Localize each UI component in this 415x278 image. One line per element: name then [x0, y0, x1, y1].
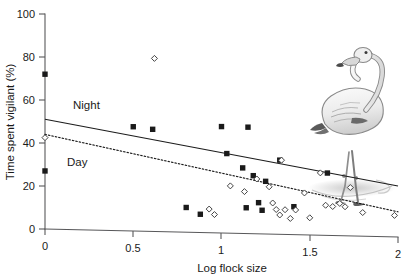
night-data-point — [42, 72, 47, 77]
night-data-point — [198, 212, 203, 217]
x-tick-label-0-5: 0.5 — [125, 242, 140, 254]
night-data-point — [244, 205, 249, 210]
day-data-point — [360, 210, 366, 216]
day-annotation: Day — [67, 156, 88, 168]
day-data-point — [273, 207, 279, 213]
night-data-point — [131, 124, 136, 129]
night-data-point — [184, 205, 189, 210]
day-data-point — [151, 55, 157, 61]
day-data-point — [270, 200, 276, 206]
day-data-point — [227, 183, 233, 189]
day-data-point — [323, 202, 329, 208]
y-tick-label-100: 100 — [17, 8, 35, 20]
x-axis-title: Log flock size — [197, 262, 267, 274]
night-data-point — [263, 179, 268, 184]
y-tick-label-40: 40 — [23, 137, 35, 149]
x-tick-label-1: 1 — [218, 244, 224, 256]
y-tick-label-20: 20 — [23, 180, 35, 192]
scatter-plot: 0 20 40 60 80 100 0 0.5 1 1.5 2 Log floc… — [0, 0, 415, 278]
night-data-point — [325, 170, 330, 175]
night-data-point — [42, 168, 47, 173]
flamingo-illustration — [308, 48, 396, 207]
day-data-point — [241, 189, 247, 195]
night-data-point — [240, 165, 245, 170]
day-data-point — [206, 206, 212, 212]
y-axis-title: Time spent vigilant (%) — [4, 64, 16, 181]
y-tick-label-0: 0 — [29, 223, 35, 235]
y-axis-ticks — [39, 14, 45, 229]
day-data-point — [266, 184, 272, 190]
night-data-point — [259, 208, 264, 213]
night-data-point — [256, 200, 261, 205]
night-data-point — [219, 124, 224, 129]
x-tick-label-0: 0 — [42, 240, 48, 252]
day-data-point — [330, 204, 336, 210]
night-data-point — [245, 124, 250, 129]
day-data-point — [342, 204, 348, 210]
figure-container: 0 20 40 60 80 100 0 0.5 1 1.5 2 Log floc… — [0, 0, 415, 278]
day-data-point — [42, 135, 48, 141]
day-data-point — [211, 212, 217, 218]
x-tick-label-2: 2 — [395, 248, 401, 260]
day-data-point — [277, 212, 283, 218]
night-data-points — [42, 72, 330, 217]
day-data-point — [391, 212, 397, 218]
y-tick-label-60: 60 — [23, 94, 35, 106]
day-data-point — [287, 215, 293, 221]
night-data-point — [150, 127, 155, 132]
y-tick-label-80: 80 — [23, 51, 35, 63]
day-data-point — [307, 215, 313, 221]
x-tick-label-1-5: 1.5 — [302, 246, 317, 258]
night-data-point — [224, 151, 229, 156]
day-data-point — [282, 207, 288, 213]
night-annotation: Night — [73, 99, 101, 111]
